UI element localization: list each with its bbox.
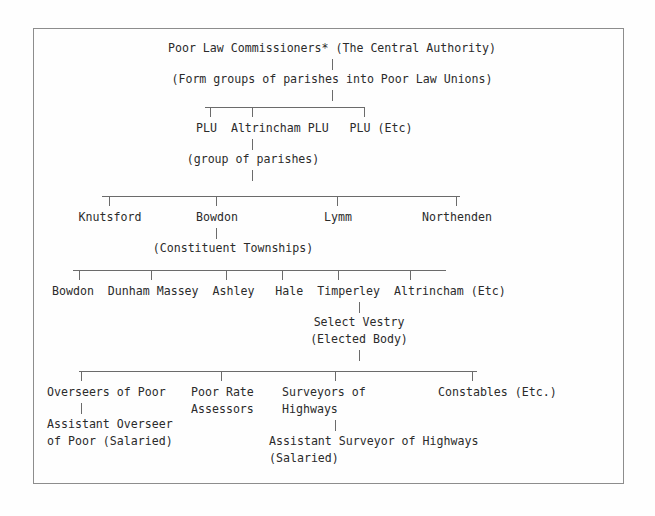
- connector-timperley-to-select-vestry: [359, 302, 360, 313]
- node-poor-rate-assessors-line1: Poor Rate: [191, 385, 254, 399]
- poor-law-hierarchy-diagram: Poor Law Commissioners* (The Central Aut…: [0, 0, 655, 516]
- tick-plu-1: [210, 108, 211, 117]
- tick-township-4: [282, 271, 283, 280]
- connector-surveyors-to-assistant: [335, 420, 336, 431]
- node-plu-row: PLU Altrincham PLU PLU (Etc): [196, 121, 412, 135]
- node-elected-body: (Elected Body): [310, 332, 408, 346]
- tick-officer-1: [81, 372, 82, 381]
- tick-officer-4: [472, 372, 473, 381]
- tick-parish-4: [456, 197, 457, 206]
- sibling-bar-plu: [205, 107, 365, 108]
- diagram-frame: Poor Law Commissioners* (The Central Aut…: [33, 28, 624, 484]
- node-parish-lymm: Lymm: [324, 210, 352, 224]
- node-surveyors-of-highways-line2: Highways: [282, 402, 338, 416]
- node-constituent-townships: (Constituent Townships): [153, 241, 314, 255]
- node-township-row: Bowdon Dunham Massey Ashley Hale Timperl…: [52, 284, 506, 298]
- tick-township-1: [79, 271, 80, 280]
- node-poor-rate-assessors-line2: Assessors: [191, 402, 254, 416]
- node-assistant-overseer-line1: Assistant Overseer: [47, 417, 173, 431]
- node-surveyors-of-highways-line1: Surveyors of: [282, 385, 366, 399]
- tick-officer-3: [335, 372, 336, 381]
- node-parish-knutsford: Knutsford: [79, 210, 142, 224]
- tick-township-6: [410, 271, 411, 280]
- node-assistant-surveyor-line1: Assistant Surveyor of Highways: [269, 434, 478, 448]
- node-parish-northenden: Northenden: [422, 210, 492, 224]
- connector-note-to-plu-bar: [332, 90, 333, 101]
- tick-officer-2: [221, 372, 222, 381]
- tick-parish-3: [337, 197, 338, 206]
- node-group-of-parishes: (group of parishes): [187, 152, 320, 166]
- tick-parish-1: [109, 197, 110, 206]
- sibling-bar-townships: [73, 270, 446, 271]
- node-parish-bowdon: Bowdon: [196, 210, 238, 224]
- connector-commissioners-to-note: [332, 59, 333, 70]
- node-assistant-surveyor-line2: (Salaried): [269, 451, 339, 465]
- node-assistant-overseer-line2: of Poor (Salaried): [47, 434, 173, 448]
- connector-vestry-to-officers-bar: [359, 350, 360, 361]
- node-select-vestry: Select Vestry: [314, 315, 405, 329]
- node-overseers-of-poor: Overseers of Poor: [47, 385, 166, 399]
- tick-township-2: [151, 271, 152, 280]
- connector-bowdon-to-townships: [216, 228, 217, 239]
- tick-plu-3: [364, 108, 365, 117]
- node-form-groups-note: (Form groups of parishes into Poor Law U…: [171, 72, 492, 86]
- tick-township-3: [226, 271, 227, 280]
- connector-overseers-to-assistant: [81, 403, 82, 414]
- connector-group-to-parish-bar: [252, 170, 253, 181]
- node-constables: Constables (Etc.): [438, 385, 557, 399]
- connector-plu-to-group: [252, 139, 253, 150]
- sibling-bar-parish-officers: [79, 371, 477, 372]
- tick-plu-2: [252, 108, 253, 117]
- tick-parish-2: [216, 197, 217, 206]
- tick-township-5: [338, 271, 339, 280]
- sibling-bar-parishes: [102, 196, 460, 197]
- node-poor-law-commissioners: Poor Law Commissioners* (The Central Aut…: [168, 41, 496, 55]
